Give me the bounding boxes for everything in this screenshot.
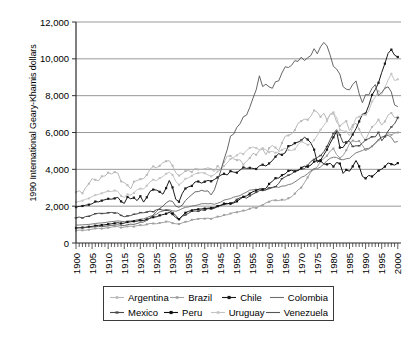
svg-text:1960: 1960: [264, 253, 275, 274]
legend-item-uruguay[interactable]: Uruguay: [210, 308, 265, 318]
legend-label: Peru: [182, 308, 202, 318]
svg-text:1980: 1980: [328, 253, 339, 274]
svg-text:6,000: 6,000: [45, 127, 69, 138]
legend-item-brazil[interactable]: Brazil: [169, 293, 221, 303]
svg-text:4,000: 4,000: [45, 164, 69, 175]
svg-text:12,000: 12,000: [40, 17, 69, 28]
legend-item-mexico[interactable]: Mexico: [109, 308, 163, 318]
svg-text:1910: 1910: [103, 253, 114, 274]
legend-item-colombia[interactable]: Colombia: [269, 293, 328, 303]
svg-text:1935: 1935: [183, 253, 194, 274]
svg-text:1950: 1950: [231, 253, 242, 274]
svg-text:8,000: 8,000: [45, 90, 69, 101]
legend-swatch-argentina: [109, 293, 125, 302]
svg-text:1985: 1985: [344, 253, 355, 274]
svg-text:2000: 2000: [392, 253, 403, 274]
legend-label: Argentina: [128, 293, 169, 303]
svg-text:1955: 1955: [247, 253, 258, 274]
legend-swatch-venezuela: [265, 308, 281, 317]
svg-text:0: 0: [64, 238, 69, 249]
grid-lines: [76, 22, 401, 206]
svg-text:1990: 1990: [360, 253, 371, 274]
svg-text:1995: 1995: [376, 253, 387, 274]
svg-text:1900: 1900: [71, 253, 82, 274]
svg-text:1925: 1925: [151, 253, 162, 274]
legend-label: Venezuela: [284, 308, 328, 318]
legend-label: Chile: [240, 293, 262, 303]
legend-swatch-mexico: [109, 308, 125, 317]
legend-label: Colombia: [288, 293, 328, 303]
legend-item-argentina[interactable]: Argentina: [109, 293, 169, 303]
line-chart: 02,0004,0006,0008,00010,00012,000 190019…: [0, 0, 414, 286]
svg-text:1905: 1905: [87, 253, 98, 274]
legend-swatch-uruguay: [210, 308, 226, 317]
svg-text:1940: 1940: [199, 253, 210, 274]
legend-row: MexicoPeruUruguayVenezuela: [109, 305, 328, 320]
legend-item-peru[interactable]: Peru: [163, 308, 210, 318]
chart-legend: ArgentinaBrazilChileColombiaMexicoPeruUr…: [103, 286, 334, 321]
svg-text:10,000: 10,000: [40, 53, 69, 64]
series-argentina: [75, 109, 399, 194]
y-axis-ticks: 02,0004,0006,0008,00010,00012,000: [40, 17, 76, 249]
legend-swatch-chile: [221, 293, 237, 302]
svg-text:1915: 1915: [119, 253, 130, 274]
chart-page: 1990 International Geary-Khamis dollars …: [0, 0, 414, 341]
legend-swatch-colombia: [269, 293, 285, 302]
svg-text:1920: 1920: [135, 253, 146, 274]
series-peru: [75, 160, 399, 229]
svg-text:1930: 1930: [167, 253, 178, 274]
svg-text:2,000: 2,000: [45, 201, 69, 212]
svg-text:1945: 1945: [215, 253, 226, 274]
svg-text:1965: 1965: [280, 253, 291, 274]
svg-text:1975: 1975: [312, 253, 323, 274]
legend-label: Mexico: [128, 308, 158, 318]
data-series: [75, 42, 399, 231]
legend-item-chile[interactable]: Chile: [221, 293, 269, 303]
legend-label: Brazil: [188, 293, 212, 303]
legend-swatch-brazil: [169, 293, 185, 302]
legend-label: Uruguay: [229, 308, 265, 318]
legend-row: ArgentinaBrazilChileColombia: [109, 290, 328, 305]
x-axis-ticks: 1900190519101915192019251930193519401945…: [71, 243, 404, 274]
svg-text:1970: 1970: [296, 253, 307, 274]
legend-item-venezuela[interactable]: Venezuela: [265, 308, 328, 318]
legend-swatch-peru: [163, 308, 179, 317]
